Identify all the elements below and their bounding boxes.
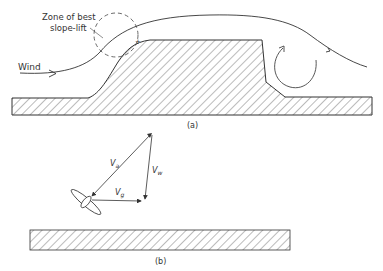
label-vw: Vw: [152, 166, 162, 176]
wind-arrowhead: [49, 70, 56, 77]
wind-label: Wind: [18, 62, 41, 72]
slope-lift-diagram: Zone of best slope-lift + Wind (a) Va Vw…: [0, 0, 383, 271]
vector-va: [92, 135, 150, 196]
label-vg: Vg: [115, 188, 124, 199]
label-va: Va: [110, 159, 119, 169]
lift-zone-circle: [94, 13, 138, 57]
vector-vw: [145, 135, 152, 199]
zone-label-leader: [90, 28, 103, 38]
zone-label-line1: Zone of best: [42, 12, 96, 22]
caption-b: (b): [155, 257, 166, 266]
zone-label-line2: slope-lift: [50, 23, 87, 33]
glider-icon: [67, 184, 105, 219]
ground-strip: [30, 230, 290, 250]
plus-mark: +: [135, 38, 141, 46]
vector-vg: [92, 200, 141, 201]
hill-terrain: [12, 40, 372, 115]
rotor-eddy-arrow: [275, 48, 317, 88]
caption-a: (a): [187, 121, 198, 130]
